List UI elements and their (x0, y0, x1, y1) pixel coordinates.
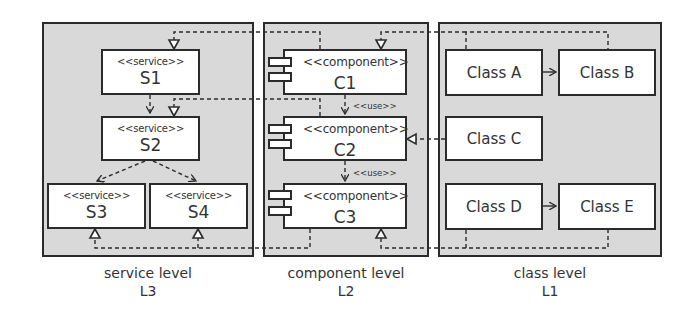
element-name: S1 (140, 68, 162, 88)
component-icon-tab (268, 57, 292, 67)
component-icon-tab (268, 206, 292, 216)
component-c3[interactable]: <<component>> C3 (283, 183, 407, 229)
element-name: Class A (467, 64, 522, 82)
component-c1[interactable]: <<component>> C1 (283, 49, 407, 95)
element-name: C1 (285, 73, 405, 93)
stereotype-label: <<service>> (165, 190, 232, 202)
stereotype-label: <<component>> (303, 122, 409, 136)
class-d[interactable]: Class D (445, 183, 543, 230)
element-name: C2 (285, 140, 405, 160)
stereotype-label: <<component>> (303, 55, 409, 69)
level-code: L2 (263, 283, 429, 299)
service-s1[interactable]: <<service>> S1 (101, 49, 200, 95)
use-label-c2-c3: <<use>> (353, 168, 397, 178)
use-label-c1-c2: <<use>> (353, 101, 397, 111)
level-title: component level (263, 265, 429, 281)
stereotype-label: <<service>> (117, 56, 184, 68)
class-e[interactable]: Class E (558, 183, 656, 230)
component-level-caption: component level L2 (263, 265, 429, 299)
service-s2[interactable]: <<service>> S2 (101, 116, 200, 161)
component-icon-tab (268, 124, 292, 134)
service-s3[interactable]: <<service>> S3 (47, 183, 146, 229)
element-name: Class B (580, 64, 635, 82)
service-level-caption: service level L3 (42, 265, 254, 299)
element-name: C3 (285, 207, 405, 227)
stereotype-label: <<service>> (117, 123, 184, 135)
level-title: class level (438, 265, 662, 281)
component-icon-tab (268, 72, 292, 82)
stereotype-label: <<component>> (303, 189, 409, 203)
element-name: S3 (86, 202, 108, 222)
element-name: Class E (580, 198, 634, 216)
level-title: service level (42, 265, 254, 281)
stereotype-label: <<service>> (63, 190, 130, 202)
element-name: S2 (140, 135, 162, 155)
class-c[interactable]: Class C (445, 116, 543, 161)
element-name: S4 (188, 202, 210, 222)
element-name: Class D (466, 198, 522, 216)
component-c2[interactable]: <<component>> C2 (283, 116, 407, 161)
component-icon-tab (268, 139, 292, 149)
component-icon-tab (268, 190, 292, 200)
class-a[interactable]: Class A (445, 49, 543, 96)
service-s4[interactable]: <<service>> S4 (149, 183, 248, 229)
level-code: L3 (42, 283, 254, 299)
class-level-caption: class level L1 (438, 265, 662, 299)
class-b[interactable]: Class B (558, 49, 656, 96)
element-name: Class C (467, 130, 522, 148)
level-code: L1 (438, 283, 662, 299)
